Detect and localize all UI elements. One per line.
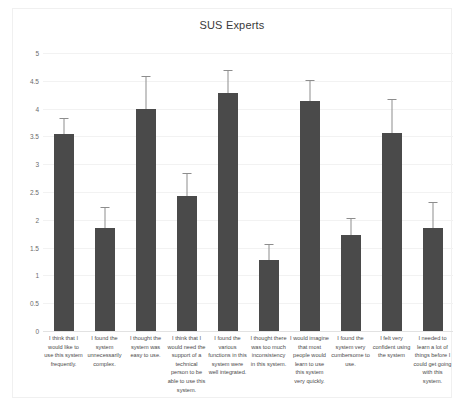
y-axis-tick-label: 5	[13, 50, 39, 57]
y-axis-tick-label: 0.5	[13, 300, 39, 307]
bar[interactable]	[136, 109, 156, 331]
error-bar-cap	[59, 118, 68, 119]
bar-group[interactable]	[207, 53, 248, 331]
error-bar-cap	[100, 207, 109, 208]
y-axis-tick-label: 2.5	[13, 189, 39, 196]
error-bar-line	[391, 100, 392, 133]
y-axis-tick-label: 1.5	[13, 244, 39, 251]
error-bar-cap	[182, 173, 191, 174]
bar-group[interactable]	[371, 53, 412, 331]
bar[interactable]	[423, 228, 443, 331]
y-axis-tick-label: 0	[13, 328, 39, 335]
error-bar-cap	[264, 244, 273, 245]
x-axis-tick-label: I felt very confident using the system	[371, 334, 412, 360]
bar-group[interactable]	[330, 53, 371, 331]
x-axis-tick-label: I found the system very cumbersome to us…	[330, 334, 371, 368]
bar-group[interactable]	[43, 53, 84, 331]
bar-group[interactable]	[125, 53, 166, 331]
error-bar-cap	[223, 70, 232, 71]
y-axis-tick-label: 4	[13, 105, 39, 112]
error-bar-cap	[346, 218, 355, 219]
y-axis-tick-label: 4.5	[13, 77, 39, 84]
chart-container: SUS Experts 54.543.532.521.510.50 I thin…	[12, 8, 452, 398]
bar-group[interactable]	[166, 53, 207, 331]
bar[interactable]	[95, 228, 115, 331]
x-axis-tick-label: I found the various functions in this sy…	[207, 334, 248, 377]
error-bar-cap	[387, 99, 396, 100]
error-bar-cap	[305, 80, 314, 81]
bar[interactable]	[218, 93, 238, 331]
error-bar-line	[63, 119, 64, 134]
error-bar-line	[350, 219, 351, 236]
error-bar-cap	[428, 202, 437, 203]
x-axis-tick-label: I think that I would like to use this sy…	[43, 334, 84, 368]
y-axis-tick-label: 3	[13, 161, 39, 168]
chart-title: SUS Experts	[13, 19, 451, 31]
bar-group[interactable]	[412, 53, 453, 331]
x-axis-tick-label: I needed to learn a lot of things before…	[412, 334, 453, 386]
bar-group[interactable]	[84, 53, 125, 331]
bar[interactable]	[300, 101, 320, 331]
x-axis-tick-label: I thought the system was easy to use.	[125, 334, 166, 360]
error-bar-cap	[141, 76, 150, 77]
y-axis-tick-label: 1	[13, 272, 39, 279]
bar[interactable]	[259, 260, 279, 331]
bar[interactable]	[177, 196, 197, 331]
error-bar-line	[227, 71, 228, 93]
bar[interactable]	[341, 235, 361, 331]
x-axis-tick-label: I found the system unnecessarily complex…	[84, 334, 125, 368]
error-bar-line	[186, 174, 187, 196]
error-bar-line	[268, 245, 269, 259]
error-bar-line	[104, 208, 105, 229]
bar[interactable]	[382, 133, 402, 331]
x-axis-labels: I think that I would like to use this sy…	[43, 334, 453, 404]
error-bar-line	[432, 203, 433, 228]
error-bar-line	[309, 81, 310, 101]
x-axis-tick-label: I would imagine that most people would l…	[289, 334, 330, 386]
bar-group[interactable]	[248, 53, 289, 331]
x-axis-tick-label: I think that I would need the support of…	[166, 334, 207, 394]
bar-group[interactable]	[289, 53, 330, 331]
y-axis-tick-label: 3.5	[13, 133, 39, 140]
gridline	[43, 331, 453, 332]
error-bar-line	[145, 77, 146, 109]
y-axis-tick-label: 2	[13, 216, 39, 223]
plot-area: 54.543.532.521.510.50	[43, 53, 453, 331]
x-axis-tick-label: I thought there was too much inconsisten…	[248, 334, 289, 368]
bar[interactable]	[54, 134, 74, 331]
